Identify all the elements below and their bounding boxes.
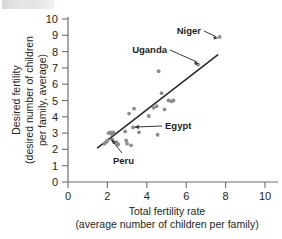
scatter-point: [123, 130, 127, 134]
y-axis-title-sub-1: (desired number of children: [23, 36, 35, 164]
scatter-point: [155, 104, 159, 108]
x-axis: 0 2 4 6 8 10: [65, 182, 278, 202]
scatter-point: [137, 130, 141, 134]
y-axis-title-main: Desired fertility: [10, 65, 22, 135]
scatter-point: [160, 91, 164, 95]
scatter-point: [171, 99, 175, 103]
x-ticklabel-4: 4: [144, 190, 150, 202]
scatter-point: [106, 139, 110, 143]
x-ticklabel-6: 6: [183, 190, 189, 202]
scatter-point: [156, 133, 160, 137]
leader-niger: [204, 31, 217, 37]
scatter-point: [163, 108, 167, 112]
x-ticklabel-8: 8: [223, 190, 229, 202]
y-ticklabel-7: 7: [52, 62, 58, 74]
x-ticklabel-10: 10: [259, 190, 271, 202]
y-ticklabel-5: 5: [52, 95, 58, 107]
x-ticklabel-0: 0: [65, 190, 71, 202]
annotation-label-uganda: Uganda: [132, 44, 168, 55]
y-ticklabel-2: 2: [52, 143, 58, 155]
y-ticklabel-1: 1: [52, 160, 58, 172]
x-axis-title: Total fertility rate (average number of …: [75, 205, 258, 230]
y-axis-title: Desired fertility (desired number of chi…: [10, 36, 48, 164]
annotation-label-egypt: Egypt: [165, 120, 192, 131]
scatter-point: [218, 35, 222, 39]
annotation-label-niger: Niger: [177, 25, 202, 36]
scatter-point: [132, 107, 136, 111]
y-ticklabel-6: 6: [52, 78, 58, 90]
y-ticklabel-8: 8: [52, 46, 58, 58]
x-axis-title-main: Total fertility rate: [129, 205, 206, 217]
scatter-point: [125, 142, 129, 146]
y-ticklabel-3: 3: [52, 127, 58, 139]
scatter-chart: 10 9 8 7 6 5 4 3 2 1 0 0 2 4 6 8 10 Tota…: [0, 0, 282, 239]
scatter-point: [129, 143, 133, 147]
scatter-point: [157, 69, 161, 73]
y-axis-title-sub-2: per family, average): [36, 54, 48, 146]
scatter-point: [131, 125, 135, 129]
scatter-point: [111, 130, 115, 134]
leader-uganda: [170, 50, 197, 62]
leader-egypt: [136, 126, 162, 127]
x-ticklabel-2: 2: [104, 190, 110, 202]
scatter-point: [127, 112, 131, 116]
y-axis: 10 9 8 7 6 5 4 3 2 1 0: [46, 13, 68, 188]
y-ticklabel-0: 0: [52, 176, 58, 188]
annotation-label-peru: Peru: [113, 155, 134, 166]
y-ticklabel-9: 9: [52, 29, 58, 41]
scatter-point: [124, 139, 128, 143]
y-ticklabel-10: 10: [46, 13, 58, 25]
x-axis-title-sub: (average number of children per family): [75, 218, 258, 230]
y-ticklabel-4: 4: [52, 111, 58, 123]
scatter-point: [147, 114, 151, 118]
